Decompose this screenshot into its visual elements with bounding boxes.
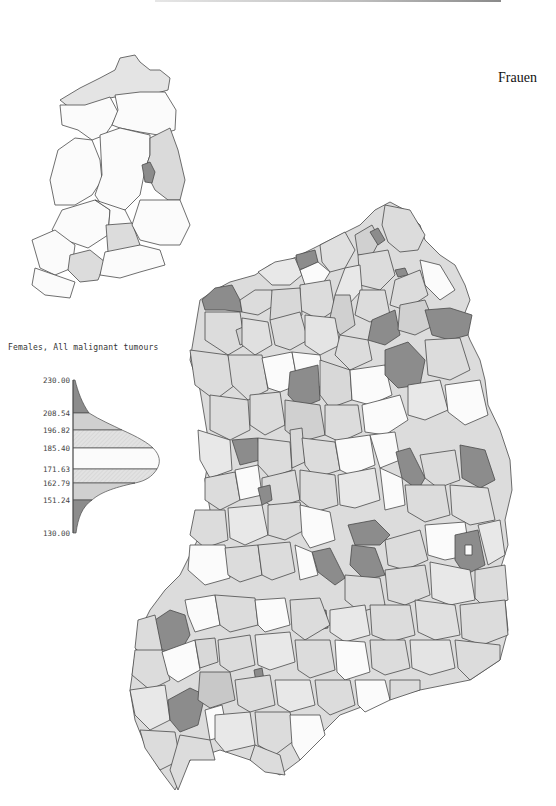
legend-tick-208: 208.54: [43, 409, 71, 418]
legend-chart: 230.00 208.54 196.82 185.40 171.63 162.7…: [43, 376, 159, 538]
county: [370, 605, 415, 642]
county: [370, 640, 410, 675]
county: [225, 545, 262, 582]
county: [330, 605, 370, 642]
county: [355, 680, 390, 712]
county: [425, 308, 472, 340]
county: [338, 468, 380, 508]
county: [465, 545, 472, 555]
legend-tick-185: 185.40: [43, 444, 71, 453]
inset-region-west: [50, 138, 102, 205]
county: [295, 640, 335, 678]
legend-band-5: [73, 469, 157, 483]
county: [210, 395, 250, 440]
legend-band-7: [73, 500, 92, 533]
county: [190, 510, 228, 548]
county: [255, 632, 295, 670]
legend-tick-171: 171.63: [43, 465, 70, 474]
legend-tick-230: 230.00: [43, 376, 71, 385]
legend-tick-196: 196.82: [43, 426, 70, 435]
county: [415, 600, 460, 640]
county: [215, 712, 255, 752]
county: [218, 635, 255, 672]
map-canvas: 230.00 208.54 196.82 185.40 171.63 162.7…: [0, 0, 556, 806]
legend-band-6: [73, 483, 135, 500]
inset-map: [32, 55, 190, 298]
county: [235, 675, 275, 712]
legend-band-3: [73, 430, 153, 448]
county: [410, 640, 455, 675]
legend-band-2: [73, 413, 122, 430]
legend-tick-151: 151.24: [43, 496, 71, 505]
legend-band-1: [73, 380, 89, 413]
county: [390, 680, 420, 700]
county: [215, 595, 258, 632]
inset-region-center: [95, 128, 150, 210]
inset-region-southeast: [132, 200, 190, 245]
inset-region-gera: [68, 250, 105, 282]
county: [335, 640, 370, 680]
county: [235, 465, 262, 500]
legend-tick-130: 130.00: [43, 529, 71, 538]
legend-band-4: [73, 448, 159, 469]
main-map: [130, 202, 512, 790]
county: [258, 542, 295, 580]
legend-tick-162: 162.79: [43, 479, 70, 488]
